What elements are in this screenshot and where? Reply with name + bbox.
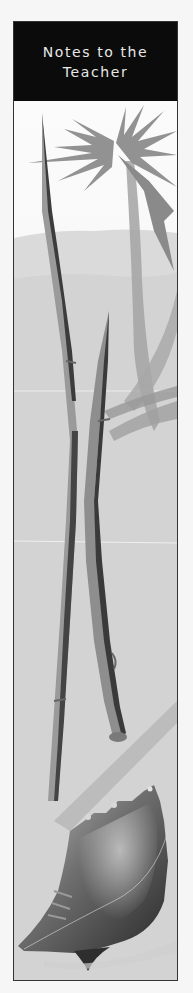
panel-header: Notes to the Teacher	[14, 22, 177, 101]
teacher-notes-panel: Notes to the Teacher	[13, 21, 178, 981]
header-title-line2: Teacher	[63, 62, 129, 82]
beach-illustration	[14, 101, 177, 980]
header-title-line1: Notes to the	[43, 42, 149, 62]
